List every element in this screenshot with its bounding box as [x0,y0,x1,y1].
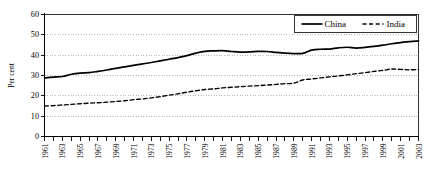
x-tick-label: 1989 [290,143,299,158]
series-line-india [45,69,419,106]
x-tick-label: 1977 [183,143,192,158]
x-tick-label: 1981 [219,143,228,158]
x-tick-label: 1991 [308,143,317,158]
x-tick-label: 1971 [130,143,139,158]
x-tick-label: 1997 [361,143,370,158]
legend-label-china: China [325,19,347,29]
x-tick-label: 2001 [397,143,406,158]
x-tick-label: 1961 [41,143,50,158]
x-tick-label: 1993 [325,143,334,158]
x-axis: 1961196319651967196919711973197519771979… [41,137,424,159]
series-lines [45,41,419,106]
x-tick-label: 2003 [415,143,424,158]
y-tick-label: 20 [31,91,39,100]
x-tick-label: 1975 [165,143,174,158]
y-tick-label: 40 [31,51,39,60]
y-axis: 0102030405060 [31,10,45,141]
x-tick-label: 1969 [112,143,121,158]
x-tick-label: 1983 [236,143,245,158]
y-axis-label: Per cent [7,62,16,88]
y-tick-label: 30 [31,71,39,80]
y-tick-label: 0 [35,132,39,141]
y-tick-label: 50 [31,30,39,39]
x-tick-label: 1995 [343,143,352,158]
x-tick-label: 1979 [201,143,210,158]
chart-figure: 0102030405060 19611963196519671969197119… [0,0,428,184]
y-tick-label: 10 [31,112,39,121]
line-chart: 0102030405060 19611963196519671969197119… [0,0,428,184]
x-tick-label: 1965 [76,143,85,158]
x-tick-label: 1987 [272,143,281,158]
x-tick-label: 1967 [94,143,103,158]
x-tick-label: 1985 [254,143,263,158]
chart-legend: ChinaIndia [295,16,417,33]
x-tick-label: 1973 [147,143,156,158]
y-axis-title: Per cent [7,62,16,88]
y-tick-label: 60 [31,10,39,19]
x-tick-label: 1999 [379,143,388,158]
x-tick-label: 1963 [58,143,67,158]
legend-label-india: India [387,19,406,29]
